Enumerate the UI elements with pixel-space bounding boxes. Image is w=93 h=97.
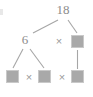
edge-root-to-left <box>33 20 58 33</box>
operator-multiply-level3-2: × <box>56 72 68 83</box>
operator-multiply-level3-1: × <box>23 72 35 83</box>
node-root-18: 18 <box>54 3 72 16</box>
blank-box-level3-3[interactable] <box>71 70 84 83</box>
edge-root-to-right <box>68 20 77 33</box>
factor-tree-diagram: 18 6 × × × <box>0 0 93 97</box>
node-factor-6: 6 <box>18 33 32 46</box>
edge-six-to-blank1 <box>13 49 23 68</box>
blank-box-level2-right[interactable] <box>71 35 84 48</box>
operator-multiply-level2: × <box>53 36 65 47</box>
blank-box-level3-1[interactable] <box>6 70 19 83</box>
blank-box-level3-2[interactable] <box>38 70 51 83</box>
edge-six-to-blank2 <box>30 49 44 68</box>
